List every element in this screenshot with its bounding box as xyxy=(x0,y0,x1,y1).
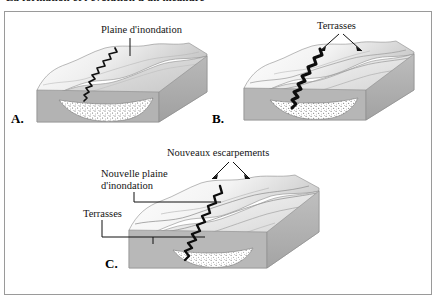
panel-c-leader-bracket-nouvelle-plaine xyxy=(133,190,223,206)
panel-b-leader-arrows xyxy=(317,33,367,55)
panel-c-label-nouveaux-escarpements: Nouveaux escarpements xyxy=(167,147,269,159)
panel-c-leader-bracket-terrasses xyxy=(101,218,211,242)
panel-a-leader-line xyxy=(127,38,133,56)
page-heading-cutoff: La formation et l'évolution d'un méandre xyxy=(6,0,306,3)
panel-a-block-diagram xyxy=(29,30,214,138)
panel-c-label-terrasses: Terrasses xyxy=(83,208,122,220)
panel-b-label-terrasses: Terrasses xyxy=(317,20,356,32)
figure-frame: A. Plaine d'inondation xyxy=(4,11,432,295)
panel-c-letter: C. xyxy=(105,256,118,272)
panel-b-letter: B. xyxy=(212,111,224,127)
panel-a-label-plaine-inondation: Plaine d'inondation xyxy=(101,24,182,36)
panel-c-label-nouvelle-plaine-line1: Nouvelle plaine xyxy=(101,168,193,180)
page-heading-text: La formation et l'évolution d'un méandre xyxy=(6,0,306,3)
panel-a-letter: A. xyxy=(11,111,24,127)
panel-c-label-nouvelle-plaine-line2: d'inondation xyxy=(101,180,193,192)
panel-c-leader-arrows-escarpements xyxy=(208,160,254,182)
